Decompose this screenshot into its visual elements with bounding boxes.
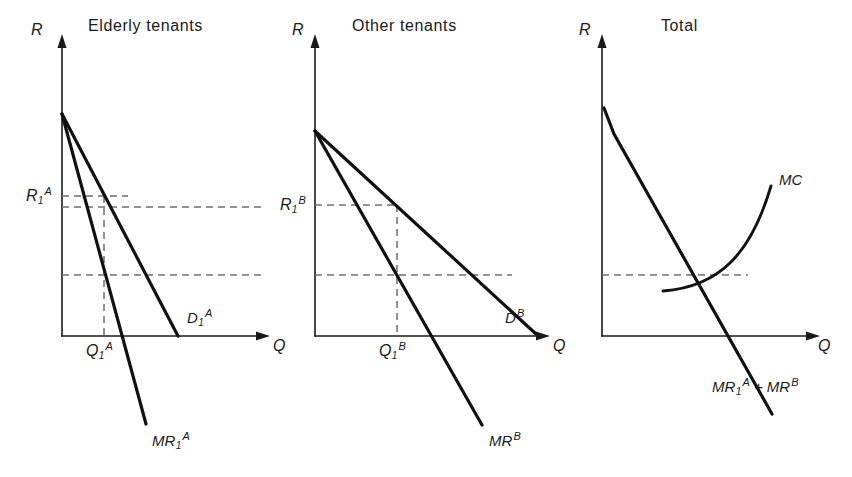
panel3-mr-superscript-2: B: [790, 376, 799, 388]
panel3-y-axis-label: R: [579, 22, 591, 38]
panel2-mr-superscript: B: [512, 430, 521, 442]
panel3-mr-plus: + MR: [750, 378, 790, 395]
panel-elderly: [58, 34, 271, 424]
panel1-y-axis-arrowhead: [58, 34, 67, 48]
panel1-y-axis-label: R: [31, 22, 43, 38]
panel3-aggregate-mr-curve: [604, 108, 772, 414]
panel2-price-superscript: B: [297, 194, 306, 206]
panel1-x-axis-label: Q: [273, 338, 285, 354]
panel1-demand-subscript: 1: [198, 317, 204, 328]
panel2-x-axis-arrowhead: [536, 332, 550, 341]
panel2-demand-base: D: [505, 309, 516, 326]
panel1-demand-label: D1A: [187, 308, 212, 328]
panel2-demand-curve: [315, 131, 536, 334]
panel2-price-label: R1B: [280, 195, 306, 215]
panel1-quantity-label: Q1A: [86, 341, 113, 361]
diagram-canvas: [0, 0, 852, 477]
panel2-mr-label: MRB: [489, 431, 521, 448]
panel2-title: Other tenants: [352, 18, 457, 34]
panel3-marginal-cost-label: MC: [779, 172, 802, 187]
panel2-x-axis-label: Q: [553, 338, 565, 354]
panel1-price-label: R1A: [26, 186, 52, 206]
panel2-price-base: R: [280, 196, 292, 213]
panel3-x-axis-label: Q: [818, 338, 830, 354]
panel1-title: Elderly tenants: [88, 18, 203, 34]
panel3-aggregate-mr-label: MR1A + MRB: [712, 377, 799, 397]
panel1-demand-base: D: [187, 309, 198, 326]
panel1-demand-superscript: A: [204, 307, 213, 319]
panel3-mr-superscript: A: [741, 376, 750, 388]
panel3-mr-base: MR: [712, 378, 735, 395]
panel2-demand-superscript: B: [516, 307, 525, 319]
panel1-mr-label: MR1A: [152, 431, 190, 451]
panel1-price-superscript: A: [43, 185, 52, 197]
panel1-marginal-revenue-curve: [62, 114, 146, 424]
panel2-y-axis-arrowhead: [311, 34, 320, 48]
panel1-quantity-superscript: A: [104, 340, 113, 352]
panel3-title: Total: [661, 18, 698, 34]
panel1-mr-base: MR: [152, 432, 175, 449]
economics-figure: R Q Elderly tenants R1A Q1A D1A MR1A R Q…: [0, 0, 852, 477]
panel2-quantity-superscript: B: [397, 340, 406, 352]
panel2-mr-base: MR: [489, 432, 512, 449]
panel2-y-axis-label: R: [292, 22, 304, 38]
panel-total: [598, 34, 821, 414]
panel3-y-axis-arrowhead: [598, 34, 607, 48]
panel2-quantity-base: Q: [379, 342, 391, 359]
panel1-demand-curve: [62, 114, 178, 336]
panel1-mr-superscript: A: [181, 430, 190, 442]
panel-other: [311, 34, 551, 425]
panel1-x-axis-arrowhead: [256, 332, 270, 341]
panel2-demand-label: DB: [505, 308, 524, 325]
panel2-marginal-revenue-curve: [315, 131, 482, 425]
panel2-quantity-label: Q1B: [379, 341, 406, 361]
panel1-quantity-base: Q: [86, 342, 98, 359]
panel1-price-base: R: [26, 187, 38, 204]
